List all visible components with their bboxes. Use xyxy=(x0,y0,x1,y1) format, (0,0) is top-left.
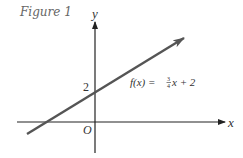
function-lhs: f(x) = xyxy=(130,76,155,89)
function-line xyxy=(27,38,184,134)
origin-label: O xyxy=(83,123,92,137)
figure: Figure 1 y x O 2 f(x) = 3 4 x + 2 xyxy=(0,0,243,158)
chart-plot: y x O 2 f(x) = 3 4 x + 2 xyxy=(0,0,243,158)
function-annotation: f(x) = 3 4 x + 2 xyxy=(130,76,196,89)
fraction-numerator: 3 xyxy=(167,76,170,82)
fraction-denominator: 4 xyxy=(167,83,170,89)
y-axis-label: y xyxy=(90,6,98,21)
function-rhs: x + 2 xyxy=(171,76,196,88)
x-axis-label: x xyxy=(227,115,234,130)
y-intercept-label: 2 xyxy=(83,80,89,94)
